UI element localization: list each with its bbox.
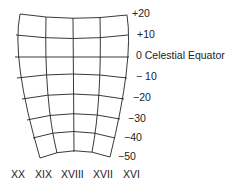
declination-label-minus50: −50 [118,151,136,162]
dec-line-plus10 [16,35,128,39]
dec-line-minus50 [40,151,110,158]
ra-line-xvii [92,17,100,152]
declination-label-plus20: +20 [132,8,150,19]
ra-label-xix: XIX [35,169,52,180]
coordinate-grid [0,0,225,189]
ra-label-xvii: XVII [93,169,113,180]
ra-label-xvi: XVI [123,169,140,180]
dec-line-minus10 [17,74,127,78]
ra-label-xx: XX [11,169,25,180]
declination-label-equator: 0 Celestial Equator [136,50,225,61]
dec-line-plus20 [20,14,127,18]
declination-label-minus30: −30 [128,113,146,124]
declination-label-minus10: − 10 [136,71,157,82]
dec-line-minus20 [22,94,124,99]
declination-label-plus10: +10 [137,29,155,40]
ra-label-xviii: XVIII [61,169,84,180]
declination-label-minus40: −40 [124,132,142,143]
declination-label-minus20: −20 [133,92,151,103]
